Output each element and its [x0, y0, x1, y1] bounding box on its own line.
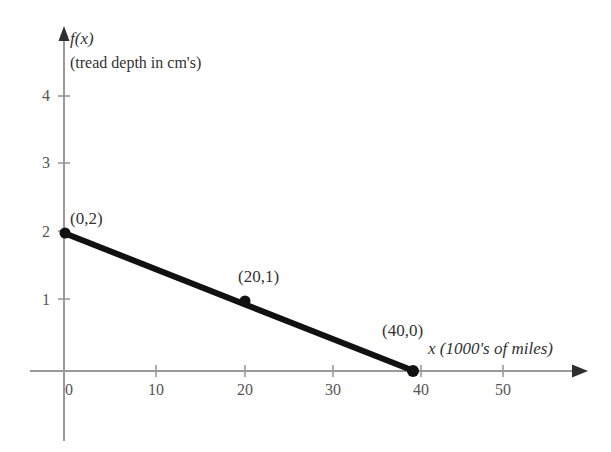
x-tick-label-50: 50: [488, 382, 518, 398]
data-point-0-2: [60, 228, 71, 239]
annotation-point-20-1: (20,1): [238, 268, 279, 285]
data-point-40-0: [407, 365, 419, 377]
y-axis-arrowhead: [59, 26, 70, 41]
x-axis-title: x (1000's of miles): [428, 340, 553, 357]
x-axis-arrowhead: [572, 365, 588, 378]
data-point-20-1: [240, 296, 251, 307]
annotation-point-40-0: (40,0): [382, 322, 423, 339]
y-tick-label-3: 3: [28, 155, 50, 171]
y-axis-subtitle: (tread depth in cm's): [70, 55, 201, 71]
y-axis-title: f(x): [70, 30, 94, 47]
data-line-series-1: [64, 233, 414, 371]
y-tick-label-4: 4: [28, 88, 50, 104]
y-tick-label-2: 2: [28, 224, 50, 240]
y-tick-label-1: 1: [28, 292, 50, 308]
x-tick-label-0: 0: [58, 382, 80, 398]
chart-figure: f(x) (tread depth in cm's) x (1000's of …: [0, 0, 611, 452]
x-tick-label-10: 10: [141, 382, 171, 398]
annotation-point-0-2: (0,2): [70, 210, 103, 227]
x-tick-label-40: 40: [406, 382, 436, 398]
x-tick-label-20: 20: [230, 382, 260, 398]
x-tick-label-30: 30: [318, 382, 348, 398]
